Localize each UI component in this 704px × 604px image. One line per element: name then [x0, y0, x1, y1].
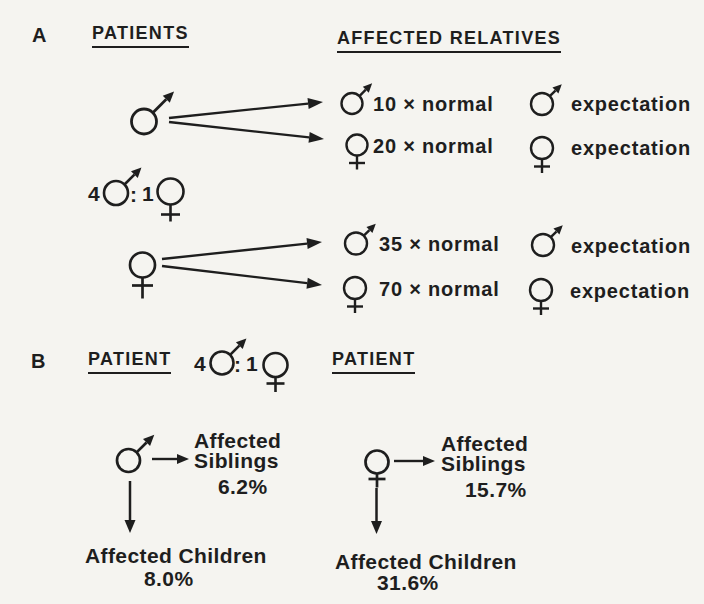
ratio-a-separator: : — [130, 184, 137, 206]
diagram-graphics-layer — [0, 0, 704, 604]
female-patient-female-expectation-label: expectation — [570, 281, 690, 302]
b-male-siblings-pct: 6.2% — [218, 476, 267, 498]
ratio-b-male-count: 4 — [194, 353, 206, 375]
patients-header: PATIENTS — [92, 24, 189, 48]
b-female-siblings-pct: 15.7% — [465, 479, 527, 501]
a-row1-male-relative-icon — [342, 83, 373, 114]
male-patient-male-expectation-label: expectation — [571, 94, 691, 115]
a-row4-female-expectation-icon — [530, 279, 552, 315]
a-row3-male-expectation-icon — [532, 225, 563, 256]
arrow-b-female-to-children — [371, 488, 382, 534]
arrow-b-male-to-children — [125, 481, 136, 533]
affected-relatives-header: AFFECTED RELATIVES — [337, 29, 561, 53]
patient-right-header: PATIENT — [332, 350, 415, 374]
a-row2-female-relative-icon — [347, 135, 368, 170]
arrow-a-male-to-female-relatives — [169, 122, 324, 143]
b-male-children-pct: 8.0% — [144, 568, 193, 590]
a-row2-female-expectation-icon — [531, 137, 553, 173]
ratio-b-female-count: 1 — [246, 353, 258, 375]
b-female-siblings-label-line2: Siblings — [441, 454, 528, 474]
b-female-siblings-label-line1: Affected — [441, 434, 528, 454]
male-patient-male-relatives-rate: 10 × normal — [373, 94, 494, 115]
arrow-a-male-to-male-relatives — [169, 98, 323, 118]
b-female-siblings-label: Affected Siblings — [441, 434, 528, 474]
b-female-children-label: Affected Children — [335, 552, 517, 572]
ratio-b-separator: : — [234, 354, 241, 376]
arrow-b-male-to-siblings — [152, 454, 189, 464]
a-ratio-female-icon — [158, 179, 184, 222]
arrow-b-female-to-siblings — [394, 456, 435, 466]
b-male-children-label: Affected Children — [85, 546, 267, 566]
ratio-a-female-count: 1 — [142, 183, 154, 205]
pedigree-figure-canvas: A PATIENTS AFFECTED RELATIVES 10 × norma… — [0, 0, 704, 604]
section-b-label: B — [31, 351, 46, 372]
female-patient-male-relatives-rate: 35 × normal — [379, 234, 500, 255]
arrow-a-female-to-female-relatives — [162, 266, 322, 289]
section-a-label: A — [32, 25, 47, 46]
male-patient-female-relatives-rate: 20 × normal — [373, 136, 494, 157]
b-male-siblings-label: Affected Siblings — [194, 431, 281, 471]
female-patient-female-relatives-rate: 70 × normal — [379, 279, 500, 300]
ratio-a-male-count: 4 — [88, 183, 100, 205]
male-patient-female-expectation-label: expectation — [571, 138, 691, 159]
b-male-siblings-label-line1: Affected — [194, 431, 281, 451]
b-male-siblings-label-line2: Siblings — [194, 451, 281, 471]
b-ratio-female-icon — [264, 353, 288, 392]
a-row1-male-expectation-icon — [531, 84, 562, 115]
patient-left-header: PATIENT — [88, 350, 171, 374]
a-female-patient-symbol — [130, 253, 155, 299]
arrow-a-female-to-male-relatives — [162, 238, 322, 259]
a-row3-male-relative-icon — [345, 224, 376, 255]
b-male-patient-symbol — [117, 435, 154, 472]
a-male-patient-symbol — [132, 91, 175, 134]
female-patient-male-expectation-label: expectation — [571, 236, 691, 257]
b-female-patient-symbol — [366, 451, 389, 488]
b-female-children-pct: 31.6% — [377, 572, 439, 594]
a-row4-female-relative-icon — [344, 277, 366, 313]
